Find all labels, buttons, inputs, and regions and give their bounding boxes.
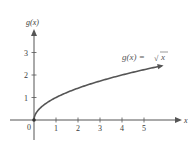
x-axis-arrow-icon — [175, 117, 182, 123]
y-axis-arrow-icon — [31, 29, 37, 36]
y-axis-label-text: g(x) — [26, 18, 39, 27]
chart-canvas: 12345 123 0 x g(x) g(x) = √ x — [0, 0, 188, 145]
y-tick-label: 3 — [24, 49, 28, 58]
y-tick-label: 2 — [24, 71, 28, 80]
radical-sign-icon: √ — [154, 54, 159, 63]
x-axis-label: x — [183, 116, 188, 125]
x-tick-label: 3 — [98, 124, 102, 133]
axes — [10, 29, 182, 140]
x-tick-label: 4 — [120, 124, 124, 133]
function-label: g(x) = √ x — [122, 52, 168, 63]
function-label-radicand: x — [160, 52, 165, 62]
origin-point — [32, 118, 36, 122]
y-ticks: 123 — [24, 49, 37, 103]
x-tick-label: 2 — [76, 124, 80, 133]
y-axis-label: g(x) — [26, 18, 39, 27]
function-label-lhs: g(x) = — [122, 52, 145, 62]
sqrt-curve — [34, 66, 162, 120]
curve-arrow-icon — [157, 64, 163, 69]
origin-label: 0 — [27, 123, 31, 132]
y-tick-label: 1 — [24, 94, 28, 103]
x-tick-label: 5 — [142, 124, 146, 133]
x-tick-label: 1 — [54, 124, 58, 133]
